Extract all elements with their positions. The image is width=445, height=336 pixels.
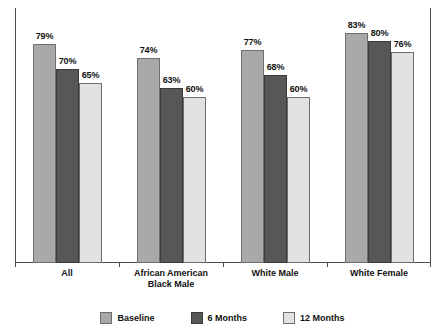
x-axis-tick — [327, 263, 328, 267]
bar-value-label: 60% — [173, 84, 216, 94]
bar-column[interactable]: 63% — [160, 8, 183, 263]
bar[interactable] — [137, 58, 160, 263]
bar[interactable] — [33, 44, 56, 263]
x-axis-tick — [119, 263, 120, 267]
bar-column[interactable]: 79% — [33, 8, 56, 263]
bar-group: 77%68%60% — [241, 8, 310, 263]
category-label-0: All — [15, 268, 119, 279]
legend-item-1[interactable]: 6 Months — [191, 312, 248, 324]
bar[interactable] — [287, 97, 310, 263]
bar-value-label: 60% — [277, 84, 320, 94]
bar[interactable] — [241, 50, 264, 263]
legend-item-2[interactable]: 12 Months — [283, 312, 345, 324]
bar[interactable] — [391, 52, 414, 263]
category-label-line: White Female — [327, 268, 431, 279]
plot-area: 79%70%65%74%63%60%77%68%60%83%80%76% — [15, 8, 431, 263]
legend-swatch-icon — [191, 312, 203, 324]
bar-value-label: 76% — [381, 39, 424, 49]
bar-column[interactable]: 65% — [79, 8, 102, 263]
bar[interactable] — [79, 83, 102, 263]
x-axis-tick — [430, 263, 431, 267]
bar[interactable] — [56, 69, 79, 263]
category-label-line: African American — [119, 268, 223, 279]
legend-label: 6 Months — [208, 313, 248, 323]
bar-column[interactable]: 68% — [264, 8, 287, 263]
legend-label: 12 Months — [300, 313, 345, 323]
category-axis-labels: AllAfrican AmericanBlack MaleWhite MaleW… — [15, 268, 431, 302]
bar-group: 83%80%76% — [345, 8, 414, 263]
bar-column[interactable]: 77% — [241, 8, 264, 263]
bar-value-label: 65% — [69, 70, 112, 80]
bar[interactable] — [183, 97, 206, 263]
bar-column[interactable]: 76% — [391, 8, 414, 263]
legend-swatch-icon — [283, 312, 295, 324]
legend-swatch-icon — [100, 312, 112, 324]
category-label-3: White Female — [327, 268, 431, 279]
x-axis-tick — [15, 263, 16, 267]
category-label-line: Black Male — [119, 279, 223, 290]
bar[interactable] — [368, 41, 391, 263]
legend-label: Baseline — [117, 313, 154, 323]
bar-column[interactable]: 60% — [287, 8, 310, 263]
bar[interactable] — [160, 88, 183, 263]
bar-column[interactable]: 74% — [137, 8, 160, 263]
bar-groups: 79%70%65%74%63%60%77%68%60%83%80%76% — [15, 8, 431, 263]
bar[interactable] — [345, 33, 368, 263]
legend-item-0[interactable]: Baseline — [100, 312, 154, 324]
bar-column[interactable]: 83% — [345, 8, 368, 263]
category-label-line: All — [15, 268, 119, 279]
bar-column[interactable]: 60% — [183, 8, 206, 263]
bar-group: 74%63%60% — [137, 8, 206, 263]
bar[interactable] — [264, 75, 287, 263]
bar-column[interactable]: 70% — [56, 8, 79, 263]
x-axis-tick — [223, 263, 224, 267]
bar-group: 79%70%65% — [33, 8, 102, 263]
category-label-1: African AmericanBlack Male — [119, 268, 223, 290]
grouped-bar-chart: 79%70%65%74%63%60%77%68%60%83%80%76% All… — [0, 0, 445, 336]
chart-legend: Baseline6 Months12 Months — [0, 308, 445, 328]
category-label-2: White Male — [223, 268, 327, 279]
category-label-line: White Male — [223, 268, 327, 279]
